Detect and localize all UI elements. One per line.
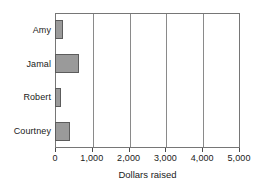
x-tick-label: 0 [52, 153, 57, 163]
y-tick-label: Amy [33, 25, 51, 35]
x-axis-labels: 0 1,000 2,000 3,000 4,000 5,000 [0, 153, 264, 165]
bar-jamal [55, 54, 79, 73]
bar-amy [55, 20, 63, 39]
x-axis-ticks [55, 148, 240, 152]
x-tick-mark [55, 148, 56, 152]
y-tick-label: Robert [23, 92, 51, 102]
bar-courtney [55, 122, 70, 141]
x-tick-mark [165, 148, 166, 152]
y-tick-label: Courtney [14, 126, 51, 136]
x-axis-title: Dollars raised [55, 169, 240, 180]
y-tick-label: Jamal [26, 59, 51, 69]
x-tick-mark [92, 148, 93, 152]
x-tick-mark [239, 148, 240, 152]
bar-slot-jamal [55, 47, 240, 81]
bar-robert [55, 88, 61, 107]
bar-slot-courtney [55, 114, 240, 148]
bars-layer [55, 13, 240, 148]
y-tick-robert: Robert [0, 81, 51, 115]
y-axis-labels: Amy Jamal Robert Courtney [0, 13, 51, 148]
x-tick-mark [202, 148, 203, 152]
x-tick-mark [129, 148, 130, 152]
x-tick-label: 1,000 [80, 153, 103, 163]
y-tick-courtney: Courtney [0, 114, 51, 148]
x-tick-label: 2,000 [117, 153, 140, 163]
bar-slot-robert [55, 81, 240, 115]
y-tick-amy: Amy [0, 13, 51, 47]
x-tick-label: 4,000 [191, 153, 214, 163]
bar-chart: Amy Jamal Robert Courtney 0 1,000 2,000 … [0, 0, 264, 189]
bar-slot-amy [55, 13, 240, 47]
x-tick-label: 3,000 [154, 153, 177, 163]
y-tick-jamal: Jamal [0, 47, 51, 81]
x-tick-label: 5,000 [227, 153, 250, 163]
